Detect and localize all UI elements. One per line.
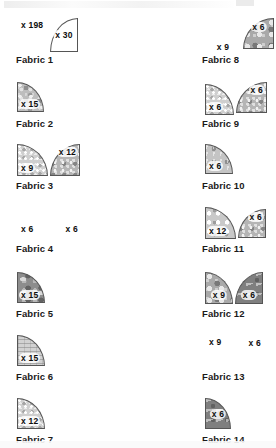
fabric-entry: x 9x 6Fabric 12	[95, 272, 187, 312]
fabric-entry: x 15Fabric 6	[0, 335, 95, 375]
fabric-piece: x 15	[17, 335, 45, 366]
fabric-entry: x 6x 9Fabric 18	[187, 207, 276, 247]
fabric-entry: x 9x 6Fabric 13	[95, 335, 187, 375]
fabric-caption: Fabric 2	[16, 118, 53, 129]
fabric-piece: x 30	[50, 18, 78, 52]
fabric-piece-group: x 198x 30	[17, 18, 95, 58]
page-bottom-artifact	[0, 441, 276, 448]
piece-quantity-label: x 15	[19, 353, 40, 363]
fabric-piece: x 6	[51, 207, 82, 237]
fabric-entry: x 6Fabric 14	[95, 398, 187, 438]
piece-quantity-label: x 30	[53, 30, 74, 40]
fabric-piece: x 12	[50, 144, 80, 176]
fabric-entry: x 12x 6Fabric 11	[95, 207, 187, 247]
fabric-column-1: x 198x 30Fabric 1x 15Fabric 2x 9x 12Fabr…	[0, 0, 95, 448]
fabric-piece: x 198	[17, 18, 49, 52]
fabric-caption: Fabric 5	[16, 308, 53, 319]
fabric-piece-group: x 12	[17, 398, 95, 438]
piece-quantity-label: x 6	[64, 224, 80, 234]
fabric-piece: x 15	[17, 82, 44, 112]
fabric-piece: x 12	[17, 398, 45, 429]
fabric-entry: x 6Fabric 21	[187, 398, 276, 438]
fabric-entry: x 6Fabric 19	[187, 272, 276, 312]
fabric-entry: x 9x 6Fabric 8	[95, 18, 187, 58]
fabric-piece-group: x 15	[17, 272, 95, 312]
fabric-caption: Fabric 4	[16, 243, 53, 254]
fabric-entry: x 6x 6Fabric 20	[187, 335, 276, 375]
fabric-entry: x 9Fabric 17	[187, 144, 276, 184]
fabric-caption: Fabric 3	[16, 180, 53, 191]
fabric-piece: x 15	[17, 272, 45, 303]
piece-quantity-label: x 12	[57, 147, 78, 157]
fabric-entry: x 6Fabric 16	[187, 82, 276, 122]
fabric-entry: x 15Fabric 2	[0, 82, 95, 122]
fabric-entry: x 15Fabric 5	[0, 272, 95, 312]
fabric-caption: Fabric 1	[16, 54, 53, 65]
fabric-caption: Fabric 6	[16, 371, 53, 382]
fabric-entry: x 6x 6Fabric 4	[0, 207, 95, 247]
piece-quantity-label: x 9	[19, 163, 35, 173]
fabric-entry: x 6Fabric 10	[95, 144, 187, 184]
fabric-entry: x 12Fabric 7	[0, 398, 95, 438]
piece-quantity-label: x 12	[19, 416, 40, 426]
fabric-piece-group: x 6x 6	[17, 207, 95, 247]
piece-quantity-label: x 15	[19, 99, 40, 109]
fabric-column-3: x 12x 9Fabric 15x 6Fabric 16x 9Fabric 17…	[187, 0, 276, 448]
piece-quantity-label: x 198	[19, 20, 45, 30]
piece-quantity-label: x 6	[19, 224, 35, 234]
piece-quantity-label: x 15	[19, 290, 40, 300]
fabric-piece: x 6	[17, 207, 48, 237]
cutting-chart-page: x 198x 30Fabric 1x 15Fabric 2x 9x 12Fabr…	[0, 0, 276, 448]
fabric-entry: x 198x 30Fabric 1	[0, 18, 95, 58]
fabric-column-2: x 9x 6Fabric 8x 6x 6Fabric 9x 6Fabric 10…	[95, 0, 187, 448]
fabric-entry: x 9x 12Fabric 3	[0, 144, 95, 184]
fabric-piece: x 9	[17, 144, 48, 176]
fabric-piece-group: x 9x 12	[17, 144, 95, 184]
fabric-piece-group: x 15	[17, 82, 95, 122]
fabric-entry: x 12x 9Fabric 15	[187, 18, 276, 58]
fabric-piece-group: x 15	[17, 335, 95, 375]
fabric-entry: x 6x 6Fabric 9	[95, 82, 187, 122]
